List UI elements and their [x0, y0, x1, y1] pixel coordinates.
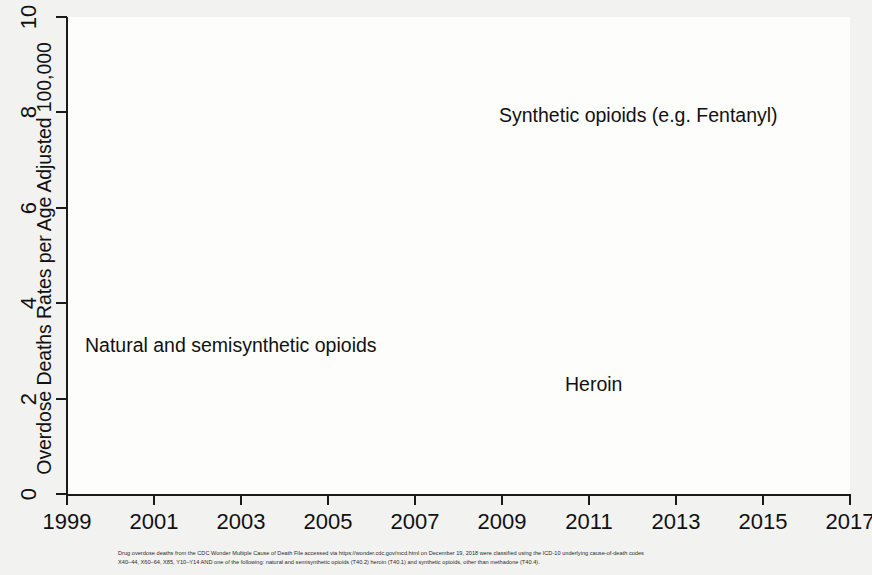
footnote-line-2: X40–44, X60–64, X85, Y10–Y14 AND one of … [118, 558, 863, 567]
x-tick-mark [153, 495, 155, 505]
x-tick-mark [240, 495, 242, 505]
x-tick-mark [849, 495, 851, 505]
y-tick-label: 6 [18, 188, 40, 228]
x-tick-label: 2017 [805, 509, 872, 535]
x-tick-mark [501, 495, 503, 505]
x-tick-label: 2015 [718, 509, 808, 535]
x-tick-mark [675, 495, 677, 505]
y-tick-label: 0 [18, 474, 40, 514]
x-tick-mark [588, 495, 590, 505]
annotation-synthetic-opioids: Synthetic opioids (e.g. Fentanyl) [499, 104, 778, 127]
chart-footnote: Drug overdose deaths from the CDC Wonder… [118, 549, 863, 566]
annotation-heroin: Heroin [565, 373, 622, 396]
y-tick-mark [56, 302, 67, 304]
y-tick-label: 8 [18, 92, 40, 132]
x-tick-label: 1999 [22, 509, 112, 535]
x-tick-mark [327, 495, 329, 505]
x-tick-label: 2005 [283, 509, 373, 535]
x-tick-label: 2003 [196, 509, 286, 535]
plot-area [67, 17, 850, 494]
opioid-overdose-chart: Overdose Deaths Rates per Age Adjusted 1… [0, 0, 872, 575]
y-tick-label: 4 [18, 283, 40, 323]
y-axis-spine [66, 17, 68, 496]
x-tick-label: 2007 [370, 509, 460, 535]
x-tick-mark [66, 495, 68, 505]
y-tick-mark [56, 207, 67, 209]
y-tick-label: 10 [18, 0, 40, 37]
y-tick-mark [56, 111, 67, 113]
y-tick-mark [56, 398, 67, 400]
x-tick-label: 2009 [457, 509, 547, 535]
x-tick-mark [762, 495, 764, 505]
x-tick-mark [414, 495, 416, 505]
plot-background [67, 17, 850, 494]
x-tick-label: 2013 [631, 509, 721, 535]
x-axis-spine [66, 494, 851, 496]
y-tick-mark [56, 16, 67, 18]
annotation-natural-semisynthetic-opioids: Natural and semisynthetic opioids [85, 334, 377, 357]
x-tick-label: 2001 [109, 509, 199, 535]
y-axis-title: Overdose Deaths Rates per Age Adjusted 1… [33, 9, 56, 509]
x-tick-label: 2011 [544, 509, 634, 535]
footnote-line-1: Drug overdose deaths from the CDC Wonder… [118, 549, 863, 558]
y-tick-label: 2 [18, 379, 40, 419]
